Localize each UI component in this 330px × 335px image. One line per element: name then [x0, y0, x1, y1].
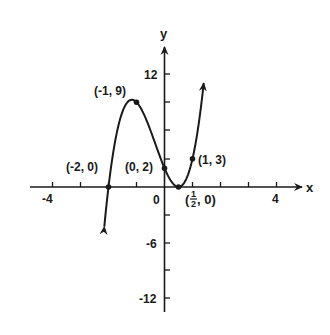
label-half-open-paren: (	[185, 192, 190, 207]
label-half-close: , 0)	[197, 192, 216, 207]
label-half-denominator: 2	[191, 199, 196, 209]
label-point-1-3: (1, 3)	[198, 153, 226, 167]
point-neg1-9	[134, 99, 140, 105]
label-point-neg1-9: (-1, 9)	[94, 84, 126, 98]
point-neg2-0	[106, 184, 112, 190]
label-point-half-0: ( 1 2 , 0)	[185, 189, 216, 209]
x-axis-label: x	[306, 180, 314, 195]
tick-label-y-neg6: -6	[146, 237, 157, 251]
point-0-2	[162, 165, 168, 171]
label-point-neg2-0: (-2, 0)	[66, 160, 98, 174]
annotated-points	[106, 99, 196, 189]
tick-label-x-4: 4	[272, 192, 279, 206]
tick-label-y-neg12: -12	[139, 292, 157, 306]
label-point-0-2: (0, 2)	[125, 160, 153, 174]
y-ticks	[165, 74, 171, 298]
y-axis-label: y	[160, 26, 168, 41]
tick-label-x-neg4: -4	[42, 192, 53, 206]
point-1-3	[190, 156, 196, 162]
label-half-numerator: 1	[191, 189, 196, 199]
point-half-0	[176, 184, 182, 190]
tick-label-origin: 0	[153, 193, 160, 207]
function-graph: x y -4 0 4 12 -6 -12 (-2, 0) (-1, 9) (0,…	[0, 0, 330, 335]
tick-label-y-12: 12	[144, 68, 158, 82]
